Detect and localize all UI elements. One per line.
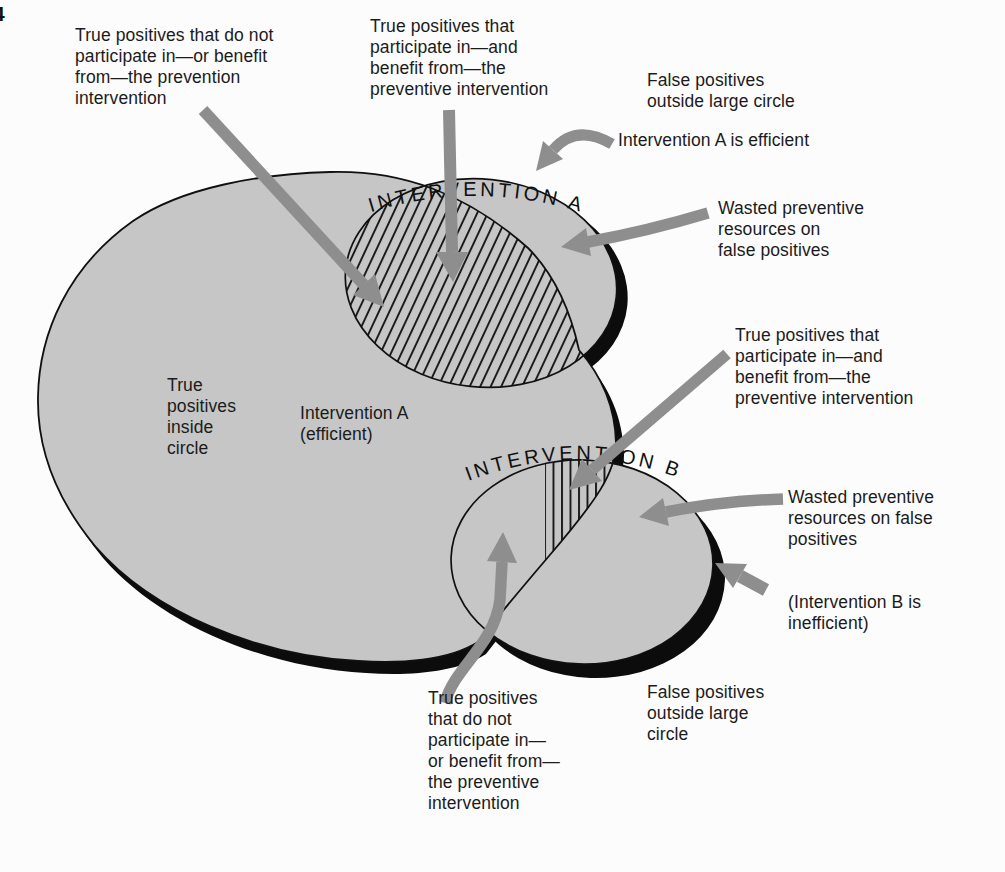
label-intervention-a-efficient: Intervention A is efficient xyxy=(618,130,878,151)
label-true-positives-participate-b: True positives that participate in—and b… xyxy=(735,325,985,409)
label-true-positives-participate-top: True positives that participate in—and b… xyxy=(370,16,610,100)
label-true-positives-not-participate-top: True positives that do not participate i… xyxy=(75,25,375,109)
figure-page: INTERVENTION A INTERVENTION B xyxy=(0,0,1005,872)
label-true-positives-not-participate-bottom: True positives that do not participate i… xyxy=(428,688,628,814)
page-number: 4 xyxy=(0,2,5,26)
label-intervention-b-inefficient: (Intervention B is inefficient) xyxy=(788,592,1003,634)
arrow-intervention-a-efficient xyxy=(536,135,612,171)
label-wasted-resources-a: Wasted preventive resources on false pos… xyxy=(718,198,938,261)
arrow-wasted-b xyxy=(639,498,783,526)
label-true-positives-inside-circle: True positives inside circle xyxy=(167,375,297,459)
label-false-positives-b: False positives outside large circle xyxy=(647,682,827,745)
label-false-positives-a: False positives outside large circle xyxy=(647,70,877,112)
label-wasted-resources-b: Wasted preventive resources on false pos… xyxy=(788,487,1003,550)
label-intervention-a-inside: Intervention A (efficient) xyxy=(300,403,480,445)
